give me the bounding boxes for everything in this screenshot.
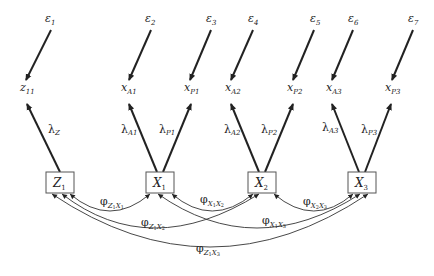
loading-labels: λZ λA1 λP1 λA2 λP2 λA3 λP3 [48,121,378,137]
cov-label-Z1X2: φZ1X2 [141,216,165,231]
arrow-X2-xA2 [231,104,259,172]
indicator-xA3: xA3 [326,81,342,96]
cov-label-X2X3: φX2X3 [303,195,327,210]
error-e4: ε4 [248,12,258,27]
path-diagram: ε1 ε2 ε3 ε4 ε5 ε6 ε7 z11 xA1 xP1 xA2 xP2… [0,0,434,276]
loading-lambda-P1: λP1 [159,123,175,137]
error-e7: ε7 [408,12,419,27]
arrow-X1-xP1 [163,104,191,172]
arrow-X3-xP3 [365,104,391,172]
cov-label-X1X2: φX1X2 [200,193,224,208]
loading-lambda-A2: λA2 [224,123,241,137]
error-e6: ε6 [348,12,359,27]
indicators: z11 xA1 xP1 xA2 xP2 xA3 xP3 [19,81,401,96]
arrow-e3-xP1 [190,30,211,80]
loading-lambda-A1: λA1 [121,123,138,137]
arrow-Z1-z11 [27,104,60,172]
cov-label-X1X3: φX1X3 [262,214,286,229]
loading-lambda-P3: λP3 [361,123,378,137]
error-terms: ε1 ε2 ε3 ε4 ε5 ε6 ε7 [45,12,419,27]
error-e5: ε5 [310,12,321,27]
loading-lambda-Z: λZ [48,123,60,137]
latent-box-X2: X2 [248,172,276,193]
arrow-e2-xA1 [129,30,151,80]
arrow-e4-xA2 [231,30,253,80]
arrow-e6-xA3 [332,30,353,80]
latent-variables: Z1 X1 X2 X3 [46,172,376,193]
error-e1: ε1 [45,12,55,27]
latent-box-X3: X3 [348,172,376,193]
cov-label-Z1X1: φZ1X1 [100,195,124,210]
latent-box-X1: X1 [146,172,174,193]
arrow-X3-xA3 [332,104,359,172]
arrow-X2-xP2 [265,104,293,172]
error-e3: ε3 [206,12,217,27]
arc-X1-X3 [158,194,360,228]
loading-lambda-A3: λA3 [322,121,339,135]
cov-label-Z1X3: φZ1X3 [196,242,220,257]
latent-box-Z1: Z1 [46,172,74,193]
arrow-e1-z11 [26,30,51,80]
loading-arrows [27,104,391,172]
error-e2: ε2 [145,12,156,27]
arrow-e5-xP2 [293,30,314,80]
arrow-e7-xP3 [392,30,413,80]
indicator-xP2: xP2 [287,81,303,96]
arrow-X1-xA1 [129,104,157,172]
error-arrows [26,30,413,80]
loading-lambda-P2: λP2 [261,123,278,137]
indicator-z11: z11 [19,81,35,96]
indicator-xP3: xP3 [385,81,401,96]
indicator-xA2: xA2 [225,81,241,96]
indicator-xA1: xA1 [121,81,137,96]
indicator-xP1: xP1 [184,81,199,96]
